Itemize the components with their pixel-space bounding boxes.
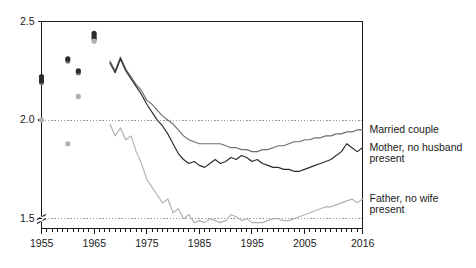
x-tick-label: 1965 [83,237,106,249]
x-tick-label: 1995 [240,237,263,249]
scatter-point-mother-no-husband-present [39,78,44,83]
x-tick-label: 2016 [351,237,374,249]
chart-root: 2.5 2.0 1.5 1955 1965 1975 1985 1995 200… [0,0,476,268]
scatter-point-mother-no-husband-present [76,68,81,73]
scatter-point-father-no-wife-present [65,141,70,146]
legend-line: present [370,153,463,165]
y-tick-label: 2.5 [0,15,35,27]
y-tick-label: 1.5 [0,212,35,224]
x-tick-label: 2005 [293,237,316,249]
series-line-father-no-wife-present [110,124,363,223]
series-line-mother-no-husband-present [110,59,363,171]
x-tick-label: 1955 [30,237,53,249]
x-tick-label: 1985 [188,237,211,249]
legend-label-married-couple: Married couple [370,124,439,136]
legend-line: Married couple [370,124,439,136]
scatter-point-father-no-wife-present [92,39,97,44]
scatter-point-father-no-wife-present [76,94,81,99]
plot-frame [42,22,363,229]
series-line-married-couple [110,57,363,152]
legend-line: present [370,204,439,216]
scatter-point-father-no-wife-present [39,117,44,122]
y-tick-label: 2.0 [0,113,35,125]
x-tick-label: 1975 [135,237,158,249]
legend-label-mother-no-husband: Mother, no husband present [370,142,463,165]
legend-label-father-no-wife: Father, no wife present [370,193,439,216]
scatter-point-mother-no-husband-present [65,56,70,61]
